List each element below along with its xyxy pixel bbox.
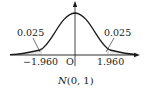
y-axis-arrow-icon <box>73 1 77 7</box>
right-critical-label: 1.960 <box>97 56 124 67</box>
normal-distribution-diagram: 0.025 0.025 −1.960 O 1.960 N(0, 1) <box>0 0 147 96</box>
left-critical-label: −1.960 <box>23 56 58 67</box>
right-area-label: 0.025 <box>104 27 131 38</box>
distribution-params: (0, 1) <box>67 75 94 86</box>
distribution-label: N(0, 1) <box>57 75 94 86</box>
left-area-leader <box>33 38 40 52</box>
left-area-label: 0.025 <box>17 27 44 38</box>
origin-label: O <box>66 56 74 67</box>
